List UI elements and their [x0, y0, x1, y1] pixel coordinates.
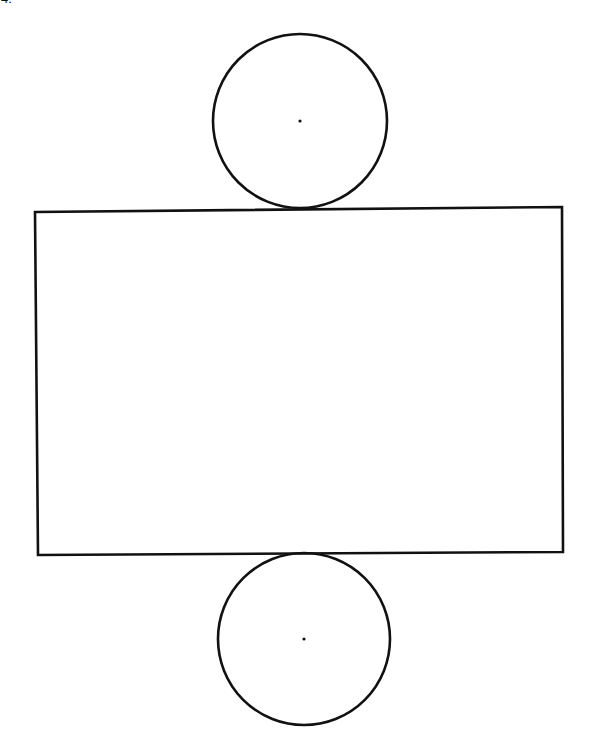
top-circle-base — [213, 34, 387, 208]
bottom-circle-base — [218, 553, 390, 725]
bottom-circle-center-dot — [302, 637, 305, 640]
cylinder-net-diagram — [0, 0, 591, 753]
top-circle-center-dot — [298, 119, 301, 122]
lateral-surface-rectangle — [35, 207, 563, 555]
